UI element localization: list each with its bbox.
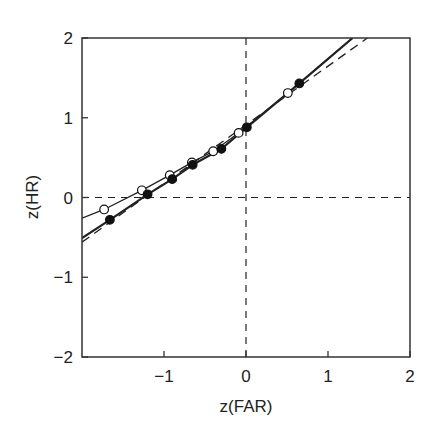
x-tick-label: 2 — [405, 367, 414, 386]
y-tick-label: −2 — [54, 348, 73, 367]
y-tick-label: 0 — [64, 189, 73, 208]
y-tick-label: −1 — [54, 268, 73, 287]
filled-circles-marker — [188, 161, 197, 170]
y-tick-label: 1 — [64, 109, 73, 128]
roc-chart: −1012−2−1012 z(FAR) z(HR) — [0, 0, 438, 429]
filled-circles-marker — [243, 123, 252, 132]
plot-content — [82, 38, 410, 357]
y-axis-label: z(HR) — [23, 175, 42, 219]
open-circles-marker — [100, 205, 109, 214]
filled-circles-marker — [295, 79, 304, 88]
filled-circles-marker — [217, 145, 226, 154]
linear-fit-line — [82, 38, 367, 242]
y-tick-label: 2 — [64, 29, 73, 48]
open-circles-marker — [234, 129, 243, 138]
plot-area — [82, 38, 410, 357]
x-tick-label: −1 — [154, 367, 173, 386]
open-circles-marker — [284, 89, 293, 98]
x-axis-label: z(FAR) — [220, 397, 273, 416]
x-tick-label: 1 — [323, 367, 332, 386]
x-tick-label: 0 — [241, 367, 250, 386]
filled-circles-marker — [168, 175, 177, 184]
filled-circles-line — [82, 38, 353, 238]
filled-circles-marker — [106, 216, 115, 225]
filled-circles-marker — [143, 190, 152, 199]
open-circles-line — [82, 38, 353, 218]
open-circles-marker — [209, 147, 218, 156]
